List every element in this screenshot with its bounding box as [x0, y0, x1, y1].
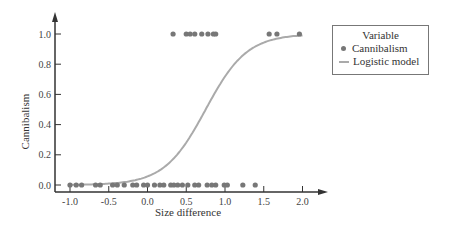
x-tick-label: 1.5 [258, 196, 271, 207]
y-tick-label: 0.2 [39, 149, 52, 160]
x-tick-label: 0.0 [141, 196, 154, 207]
data-point [267, 31, 272, 36]
legend: Variable Cannibalism Logistic model [332, 25, 429, 75]
x-axis-title: Size difference [155, 206, 221, 218]
x-axis-arrow-icon [318, 189, 328, 195]
data-point [134, 182, 139, 187]
data-point [274, 31, 279, 36]
y-tick-label: 0.4 [39, 119, 52, 130]
legend-entry-logistic-model: Logistic model [333, 55, 428, 68]
data-point [253, 182, 258, 187]
data-point [188, 31, 193, 36]
x-tick-label: -1.0 [62, 196, 78, 207]
line-marker-icon [339, 61, 349, 63]
data-point [297, 31, 302, 36]
data-point [115, 182, 120, 187]
y-tick-label: 1.0 [39, 29, 52, 40]
data-point [205, 182, 210, 187]
legend-entry-cannibalism: Cannibalism [333, 42, 428, 55]
y-tick-label: 0.0 [39, 180, 52, 191]
x-tick-label: -0.5 [101, 196, 117, 207]
data-point [196, 182, 201, 187]
data-point [225, 182, 230, 187]
data-point [122, 182, 127, 187]
data-point [67, 182, 72, 187]
logistic-model-curve [70, 35, 303, 184]
data-point [175, 182, 180, 187]
data-point [240, 182, 245, 187]
data-point [170, 31, 175, 36]
y-tick-label: 0.6 [39, 89, 52, 100]
y-tick-label: 0.8 [39, 59, 52, 70]
legend-label: Logistic model [353, 55, 419, 68]
y-axis-arrow-icon [52, 12, 58, 22]
data-point [180, 182, 185, 187]
data-point [152, 182, 157, 187]
data-point [185, 182, 190, 187]
data-point [192, 31, 197, 36]
x-tick-label: 2.0 [296, 196, 309, 207]
data-point [199, 31, 204, 36]
data-point [213, 182, 218, 187]
data-point [213, 31, 218, 36]
data-point [93, 182, 98, 187]
data-point [145, 182, 150, 187]
data-point [161, 182, 166, 187]
legend-label: Cannibalism [352, 42, 408, 55]
data-point [98, 182, 103, 187]
data-point [205, 31, 210, 36]
data-point [74, 182, 79, 187]
y-axis-title: Cannibalism [19, 93, 31, 149]
legend-title: Variable [333, 29, 428, 42]
data-point [79, 182, 84, 187]
data-point [110, 182, 115, 187]
dot-marker-icon [341, 46, 346, 51]
